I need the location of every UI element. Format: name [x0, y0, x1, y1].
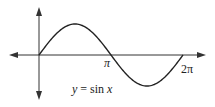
x-axis-right-arrow-icon [197, 52, 206, 58]
two-pi-label: 2π [181, 62, 193, 76]
x-axis-left-arrow-icon [9, 52, 18, 58]
y-axis [36, 7, 42, 100]
y-axis-down-arrow-icon [36, 91, 42, 100]
two-pi-tick-label: 2π [181, 62, 193, 76]
sine-chart: π 2π y = sin x [0, 0, 215, 107]
pi-tick-label: π [104, 56, 111, 70]
equation-eq: = sin [77, 82, 107, 96]
equation-label: y = sin x [71, 82, 113, 96]
equation-x: x [106, 82, 113, 96]
y-axis-up-arrow-icon [36, 7, 42, 16]
